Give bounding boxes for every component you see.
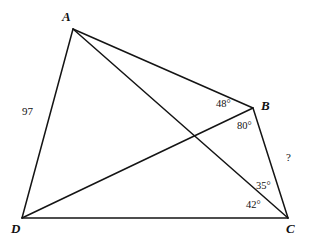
vertex-label-c: C [286, 222, 295, 235]
angle-label-dca: 42° [246, 200, 261, 211]
geometry-figure: A B C D 97 48° 80° ? 35° 42° [0, 0, 311, 251]
unknown-side-label-bc: ? [286, 152, 291, 163]
angle-label-abd: 48° [216, 99, 231, 110]
vertex-label-b: B [261, 99, 270, 112]
angle-label-dbc: 80° [237, 121, 252, 132]
figure-canvas [0, 0, 311, 251]
segment-ab [73, 29, 253, 108]
segment-da [22, 29, 73, 218]
vertex-label-a: A [62, 10, 71, 23]
vertex-label-d: D [11, 222, 20, 235]
side-length-label-ad: 97 [22, 106, 33, 117]
angle-label-acb: 35° [256, 181, 271, 192]
diagonal-db [22, 108, 253, 218]
